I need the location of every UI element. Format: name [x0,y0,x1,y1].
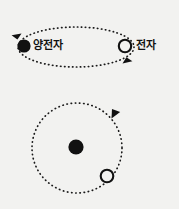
physics-diagram-figure: 양전자 전자 [0,0,179,209]
pair-panel [12,27,134,67]
pair-right-arrowhead [121,56,133,67]
electron-marker-top [119,40,131,52]
orbit-arrowhead [108,108,120,121]
positron-label: 양전자 [33,40,62,52]
orbit-panel [32,103,122,193]
pair-left-arrowhead [12,31,24,41]
electron-label: 전자 [136,40,156,52]
nucleus-marker [68,139,83,154]
positron-marker [17,39,30,52]
electron-marker-bottom [101,170,114,183]
diagram-canvas [0,0,179,209]
